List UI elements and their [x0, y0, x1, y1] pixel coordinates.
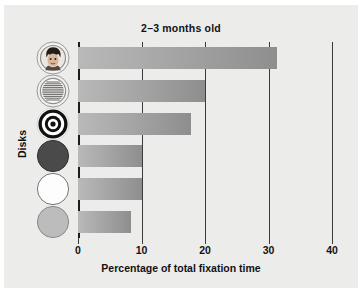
disk-slot-yellow-disk [36, 205, 72, 241]
chart-title: 2–3 months old [0, 22, 362, 34]
disk-slot-newsprint-disk [36, 74, 72, 110]
bar-bullseye-disk [78, 113, 191, 135]
bar-fill [78, 178, 142, 200]
x-tick-label-40: 40 [312, 244, 352, 256]
bar-face-disk [78, 47, 277, 69]
x-axis-label: Percentage of total fixation time [0, 262, 362, 274]
chart-figure: 2–3 months old Disks 010203040 Percentag… [0, 0, 362, 292]
bar-yellow-disk [78, 211, 131, 233]
x-tick-label-0: 0 [58, 244, 98, 256]
x-tick-label-30: 30 [249, 244, 289, 256]
gridline-40 [332, 42, 333, 238]
disk-slot-white-disk [36, 172, 72, 208]
disk-slot-bullseye-disk [36, 107, 72, 143]
bar-white-disk [78, 178, 142, 200]
plot-area: 010203040 [78, 42, 332, 238]
gridline-20 [205, 42, 206, 238]
bar-fill [78, 80, 205, 102]
bar-fill [78, 145, 142, 167]
disk-slot-face-disk [36, 41, 72, 77]
disk-slot-red-disk [36, 139, 72, 175]
x-tick-label-10: 10 [122, 244, 162, 256]
gridline-10 [142, 42, 143, 238]
bar-fill [78, 47, 277, 69]
gridline-0 [78, 42, 80, 238]
y-axis-label: Disks [16, 114, 28, 174]
bar-fill [78, 113, 191, 135]
bar-fill [78, 211, 131, 233]
bar-newsprint-disk [78, 80, 205, 102]
gridline-30 [269, 42, 270, 238]
x-tick-label-20: 20 [185, 244, 225, 256]
yellow-disk-icon [36, 225, 70, 242]
bar-red-disk [78, 145, 142, 167]
disk-icon-column [36, 42, 72, 238]
